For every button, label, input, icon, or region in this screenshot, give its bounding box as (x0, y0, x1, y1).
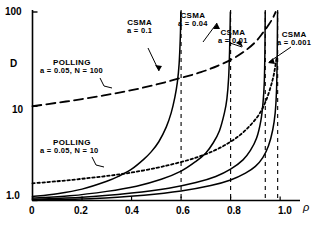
annotation-polling-n-10: POLLING a = 0.05, N = 10 (40, 138, 99, 156)
x-tick-label-0: 0 (29, 205, 35, 216)
x-tick-label-0.8: 0.8 (227, 205, 241, 216)
leader-polling-10 (92, 157, 104, 167)
x-tick-label-1.0: 1.0 (278, 205, 292, 216)
x-tick-label-0.6: 0.6 (176, 205, 190, 216)
annotation-csma-a-0.001: CSMA a = 0.001 (277, 30, 311, 48)
curve-csma-a-0-1 (33, 12, 181, 197)
arrowhead-csma-0.1 (155, 65, 162, 71)
annotation-csma-a-0.04-line2: a = 0.04 (178, 20, 208, 29)
annotation-csma-a-0.001-line2: a = 0.001 (277, 39, 311, 48)
annotation-polling-n-100: POLLING a = 0.05, N = 100 (40, 58, 103, 76)
leader-polling-100 (100, 78, 112, 88)
y-axis-label: D (10, 58, 17, 69)
x-tick-label-0.4: 0.4 (125, 205, 139, 216)
annotation-leader-lines (92, 23, 291, 167)
annotation-csma-a-0.01: CSMA a = 0.01 (218, 28, 248, 46)
curve-csma-a-0-04 (33, 12, 231, 198)
y-tick-label-100: 100 (5, 6, 22, 17)
annotation-csma-a-0.1-line2: a = 0.1 (127, 27, 152, 36)
annotation-polling-n-100-line2: a = 0.05, N = 100 (40, 67, 103, 76)
annotation-csma-a-0.1: CSMA a = 0.1 (127, 18, 152, 36)
chart-figure: D ρ 100 10 1.0 0 0.2 0.4 0.6 0.8 1.0 CSM… (0, 0, 327, 228)
annotation-polling-n-10-line2: a = 0.05, N = 10 (40, 147, 99, 156)
annotation-csma-a-0.01-line2: a = 0.01 (218, 37, 248, 46)
annotation-csma-a-0.04: CSMA a = 0.04 (178, 11, 208, 29)
x-tick-label-0.2: 0.2 (74, 205, 88, 216)
x-axis-label: ρ (303, 201, 309, 213)
curve-polling-a-0-05-n-10 (33, 59, 277, 184)
y-tick-label-10: 10 (12, 104, 23, 115)
y-tick-label-1: 1.0 (6, 190, 20, 201)
